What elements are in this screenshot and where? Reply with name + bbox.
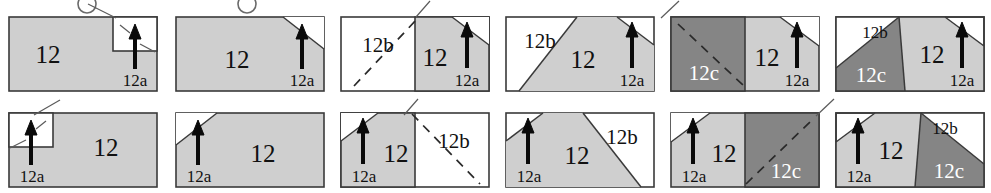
label-main: 12 bbox=[879, 137, 904, 164]
label-main: 12 bbox=[571, 46, 596, 73]
label-b: 12b bbox=[862, 23, 888, 42]
label-c: 12c bbox=[689, 61, 719, 85]
panel-r1p4: 12b 12 12a bbox=[505, 16, 655, 92]
label-a: 12a bbox=[682, 167, 707, 186]
label-a: 12a bbox=[517, 167, 542, 186]
label-main: 12 bbox=[251, 140, 276, 167]
label-c: 12c bbox=[771, 159, 801, 183]
panel-r1p6: 12b 12c 12 12a bbox=[835, 16, 985, 92]
label-a: 12a bbox=[352, 167, 377, 186]
label-main: 12 bbox=[920, 41, 945, 68]
panel-r1p1: 12 12a bbox=[8, 16, 158, 92]
label-a: 12a bbox=[187, 167, 212, 186]
label-c: 12c bbox=[934, 159, 964, 183]
label-c: 12c bbox=[856, 63, 886, 87]
panel-r2p2: 12a 12 bbox=[175, 112, 325, 188]
panel-r1p3: 12b 12 12a bbox=[340, 16, 490, 92]
label-a: 12a bbox=[455, 71, 480, 90]
panel-r2p5: 12a 12 12c bbox=[670, 112, 820, 188]
panel-r2p3: 12a 12 12b bbox=[340, 112, 490, 188]
label-a: 12a bbox=[950, 71, 975, 90]
label-main: 12 bbox=[94, 134, 119, 161]
label-a: 12a bbox=[847, 167, 872, 186]
leader-line-r2p3 bbox=[398, 98, 428, 118]
leader-line-r1p3 bbox=[412, 0, 442, 20]
label-b: 12b bbox=[438, 129, 470, 153]
label-b: 12b bbox=[932, 119, 958, 138]
label-main: 12 bbox=[225, 46, 250, 73]
label-main: 12 bbox=[565, 142, 590, 169]
panel-r1p2: 12 12a bbox=[175, 16, 325, 92]
figure-canvas: 12 12a 12 12a 12b 12 12a bbox=[0, 0, 991, 193]
label-a: 12a bbox=[123, 71, 148, 90]
label-b: 12b bbox=[362, 33, 394, 57]
label-a: 12a bbox=[620, 71, 645, 90]
panel-r1p5: 12c 12 12a bbox=[670, 16, 820, 92]
label-b: 12b bbox=[524, 29, 556, 53]
leader-line-r1p5 bbox=[655, 0, 685, 20]
label-b: 12b bbox=[606, 125, 638, 149]
panel-r2p6: 12a 12 12b 12c bbox=[835, 112, 985, 188]
panel-r2p1: 12a 12 bbox=[8, 112, 158, 188]
label-a: 12a bbox=[290, 71, 315, 90]
label-main: 12 bbox=[755, 44, 780, 71]
label-a: 12a bbox=[20, 167, 45, 186]
panel-r2p4: 12a 12 12b bbox=[505, 112, 655, 188]
label-main: 12 bbox=[712, 140, 737, 167]
label-main: 12 bbox=[423, 44, 448, 71]
label-main: 12 bbox=[36, 41, 61, 68]
label-a: 12a bbox=[785, 71, 810, 90]
label-main: 12 bbox=[384, 140, 409, 167]
leader-line-r2p1 bbox=[28, 98, 68, 118]
leader-line-r1p1 bbox=[86, 2, 126, 22]
